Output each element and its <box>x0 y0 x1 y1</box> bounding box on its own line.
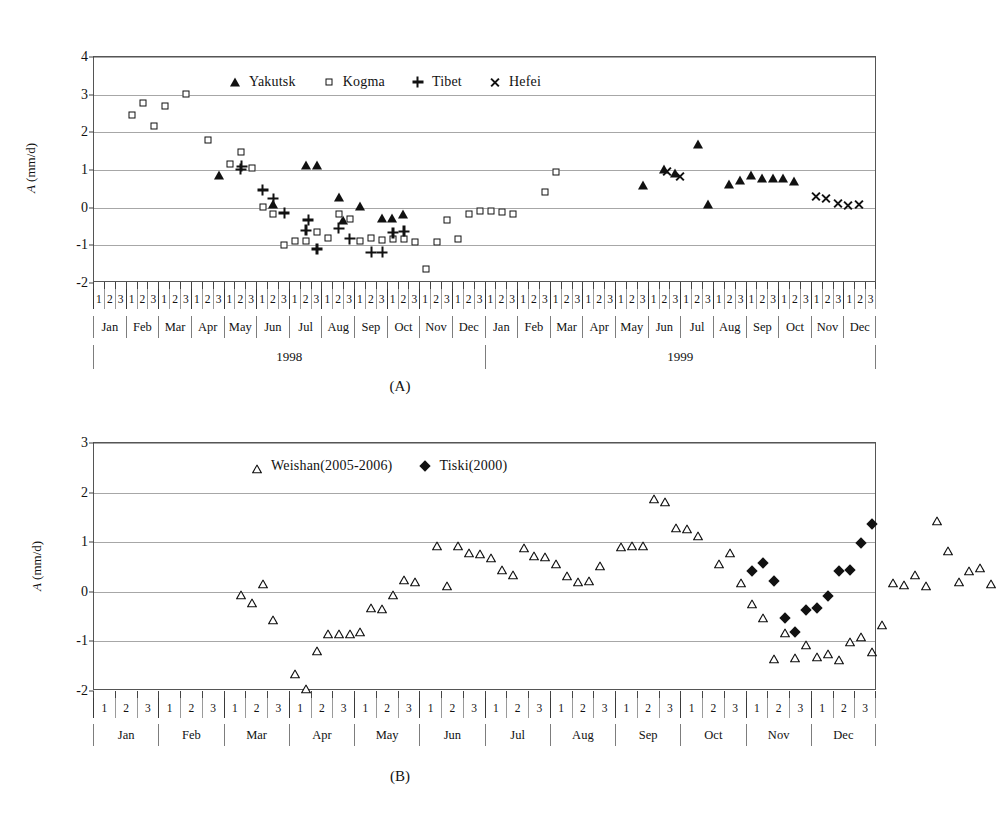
month-label: Aug <box>550 724 615 746</box>
decad-label: 2 <box>104 289 115 309</box>
decad-label: 2 <box>234 289 245 309</box>
data-point-yakutsk <box>789 177 799 186</box>
data-point-weishan-2005-2006 <box>519 539 529 548</box>
month-label: Nov <box>811 316 844 338</box>
panel-b-y-axis-label-units: (mm/d) <box>29 541 44 583</box>
decad-label: 1 <box>811 289 822 309</box>
month-label: Dec <box>811 724 876 746</box>
decad-label: 1 <box>648 289 659 309</box>
data-point-tiski-2000 <box>866 519 877 530</box>
data-point-tiski-2000 <box>757 557 768 568</box>
decad-label: 1 <box>289 698 311 718</box>
legend-marker-cross <box>488 75 502 89</box>
data-point-weishan-2005-2006 <box>693 526 703 535</box>
month-label: Jan <box>93 724 158 746</box>
decad-label: 3 <box>115 289 126 309</box>
decad-label: 2 <box>528 289 539 309</box>
year-label: 1998 <box>93 345 485 369</box>
month-label: Aug <box>321 316 354 338</box>
y-axis-tick-label: 2 <box>54 485 88 501</box>
decad-label: 3 <box>202 698 224 718</box>
data-point-weishan-2005-2006 <box>888 573 898 582</box>
panel-b-y-axis-label-symbol: A <box>29 583 44 591</box>
month-label: Jan <box>93 316 126 338</box>
y-axis-tick-label: 0 <box>54 200 88 216</box>
y-axis-tick-mark <box>89 57 94 58</box>
data-point-weishan-2005-2006 <box>334 625 344 634</box>
data-point-weishan-2005-2006 <box>529 547 539 556</box>
data-point-tibet <box>303 215 314 226</box>
y-gridline <box>94 132 875 133</box>
legend-filled-triangle-icon <box>230 78 240 87</box>
panel-a-decad-axis: 1231231231231231231231231231231231231231… <box>93 289 876 309</box>
data-point-hefei <box>662 166 673 177</box>
decad-label: 1 <box>354 698 376 718</box>
data-point-weishan-2005-2006 <box>442 576 452 585</box>
data-point-weishan-2005-2006 <box>910 565 920 574</box>
data-point-weishan-2005-2006 <box>540 548 550 557</box>
decad-label: 1 <box>713 289 724 309</box>
data-point-tibet <box>377 247 388 258</box>
data-point-weishan-2005-2006 <box>856 628 866 637</box>
month-label: Jun <box>419 724 484 746</box>
data-point-weishan-2005-2006 <box>497 561 507 570</box>
data-point-kogma <box>455 235 462 242</box>
month-label: Dec <box>452 316 485 338</box>
month-label: May <box>224 316 257 338</box>
data-point-kogma <box>498 209 505 216</box>
decad-label: 3 <box>702 289 713 309</box>
data-point-tiski-2000 <box>844 564 855 575</box>
data-point-weishan-2005-2006 <box>486 548 496 557</box>
data-point-weishan-2005-2006 <box>355 622 365 631</box>
decad-label: 3 <box>854 698 876 718</box>
year-label: 1999 <box>485 345 877 369</box>
decad-label: 1 <box>550 289 561 309</box>
data-point-yakutsk <box>377 214 387 223</box>
y-axis-tick-label: 3 <box>54 435 88 451</box>
data-point-weishan-2005-2006 <box>366 598 376 607</box>
decad-label: 3 <box>463 698 485 718</box>
decad-label: 3 <box>147 289 158 309</box>
decad-tick-row: 123123123123123123123123123123123123 <box>93 698 876 718</box>
data-point-weishan-2005-2006 <box>627 536 637 545</box>
data-point-weishan-2005-2006 <box>986 574 996 583</box>
data-point-tiski-2000 <box>790 627 801 638</box>
decad-label: 1 <box>158 698 180 718</box>
legend-label: Tiski(2000) <box>439 458 507 474</box>
legend-entry: Weishan(2005-2006) <box>250 458 418 474</box>
decad-label: 3 <box>637 289 648 309</box>
data-point-weishan-2005-2006 <box>758 609 768 618</box>
data-point-weishan-2005-2006 <box>551 555 561 564</box>
y-axis-tick-mark <box>89 207 94 208</box>
y-gridline <box>94 493 875 494</box>
panel-b-legend: Weishan(2005-2006)Tiski(2000) <box>250 458 533 474</box>
decad-label: 3 <box>332 698 354 718</box>
decad-label: 2 <box>561 289 572 309</box>
decad-label: 2 <box>756 289 767 309</box>
decad-label: 3 <box>398 698 420 718</box>
panel-b-decad-axis: 123123123123123123123123123123123123 <box>93 698 876 718</box>
data-point-weishan-2005-2006 <box>301 679 311 688</box>
data-point-kogma <box>542 188 549 195</box>
data-point-tibet <box>257 184 268 195</box>
data-point-weishan-2005-2006 <box>725 544 735 553</box>
data-point-yakutsk <box>746 170 756 179</box>
data-point-kogma <box>237 149 244 156</box>
decad-label: 1 <box>485 289 496 309</box>
year-label-row: 19981999 <box>93 345 876 369</box>
y-axis-tick-mark <box>89 245 94 246</box>
data-point-weishan-2005-2006 <box>932 512 942 521</box>
data-point-weishan-2005-2006 <box>595 557 605 566</box>
data-point-weishan-2005-2006 <box>954 572 964 581</box>
data-point-kogma <box>150 122 157 129</box>
data-point-yakutsk <box>312 161 322 170</box>
y-gridline <box>94 592 875 593</box>
decad-label: 1 <box>224 289 235 309</box>
data-point-weishan-2005-2006 <box>834 651 844 660</box>
decad-label: 2 <box>115 698 137 718</box>
y-axis-tick-label: 0 <box>54 584 88 600</box>
y-gridline <box>94 208 875 209</box>
y-axis-tick-label: 1 <box>54 534 88 550</box>
y-gridline <box>94 641 875 642</box>
data-point-yakutsk <box>638 181 648 190</box>
